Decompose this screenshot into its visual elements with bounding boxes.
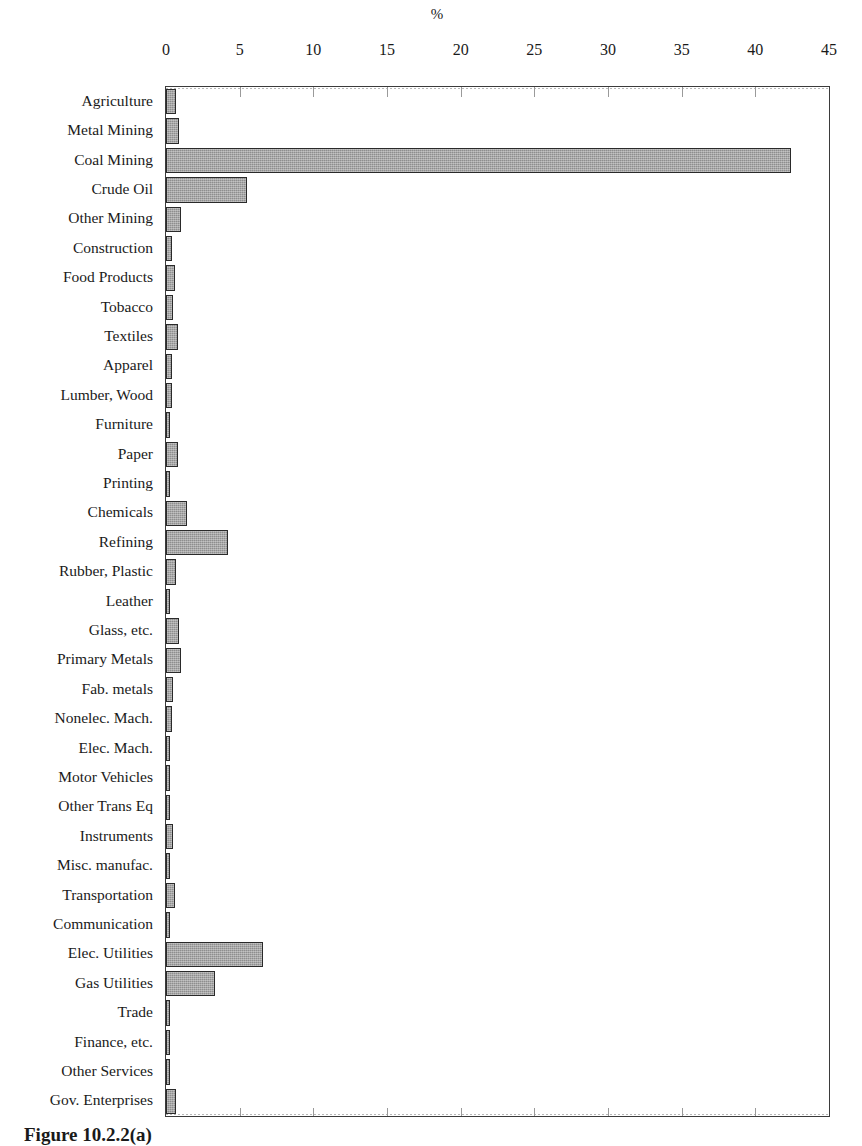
category-label-crude-oil: Crude Oil <box>0 179 160 199</box>
axis-title-text: % <box>431 6 444 22</box>
category-label-refining: Refining <box>0 532 160 552</box>
category-label-other-services: Other Services <box>0 1061 160 1081</box>
x-tick-label-0: 0 <box>146 40 186 60</box>
x-tick-label-25: 25 <box>514 40 554 60</box>
category-label-trade: Trade <box>0 1002 160 1022</box>
bar-row <box>166 293 829 322</box>
category-label-instruments: Instruments <box>0 826 160 846</box>
bar <box>166 589 170 614</box>
bar-row <box>166 1028 829 1057</box>
bar <box>166 1089 176 1114</box>
bar-row <box>166 381 829 410</box>
category-label-motor-vehicles: Motor Vehicles <box>0 767 160 787</box>
bar <box>166 912 170 937</box>
bar-row <box>166 675 829 704</box>
bar-row <box>166 969 829 998</box>
bar-row <box>166 763 829 792</box>
category-label-fab-metals: Fab. metals <box>0 679 160 699</box>
bar-row <box>166 146 829 175</box>
category-label-transportation: Transportation <box>0 885 160 905</box>
category-label-textiles: Textiles <box>0 326 160 346</box>
figure-caption: Figure 10.2.2(a) <box>24 1124 152 1146</box>
bar <box>166 795 170 820</box>
bar-row <box>166 587 829 616</box>
bar-row <box>166 205 829 234</box>
bar <box>166 1030 170 1055</box>
bar <box>166 559 176 584</box>
category-label-finance-etc: Finance, etc. <box>0 1032 160 1052</box>
bar-row <box>166 175 829 204</box>
x-tick-label-30: 30 <box>588 40 628 60</box>
bar-row <box>166 940 829 969</box>
bar-row <box>166 234 829 263</box>
bar <box>166 324 178 349</box>
category-label-coal-mining: Coal Mining <box>0 150 160 170</box>
bar <box>166 648 181 673</box>
bar <box>166 942 263 967</box>
bar <box>166 207 181 232</box>
category-label-gas-utilities: Gas Utilities <box>0 973 160 993</box>
bar <box>166 530 228 555</box>
category-label-construction: Construction <box>0 238 160 258</box>
axis-title: % <box>0 6 862 23</box>
x-tick-label-35: 35 <box>662 40 702 60</box>
bar <box>166 824 173 849</box>
bar <box>166 148 791 173</box>
category-label-lumber-wood: Lumber, Wood <box>0 385 160 405</box>
x-tick-label-20: 20 <box>441 40 481 60</box>
category-label-misc-manufac: Misc. manufac. <box>0 855 160 875</box>
x-tick-label-15: 15 <box>367 40 407 60</box>
bar <box>166 471 170 496</box>
bar <box>166 736 170 761</box>
bar-row <box>166 352 829 381</box>
category-label-glass-etc: Glass, etc. <box>0 620 160 640</box>
bar <box>166 706 172 731</box>
category-label-primary-metals: Primary Metals <box>0 649 160 669</box>
bar-row <box>166 263 829 292</box>
plot-area <box>165 86 830 1117</box>
bar-row <box>166 793 829 822</box>
category-axis-labels: AgricultureMetal MiningCoal MiningCrude … <box>0 86 160 1117</box>
bar <box>166 677 173 702</box>
category-label-metal-mining: Metal Mining <box>0 120 160 140</box>
bar-row <box>166 469 829 498</box>
category-label-elec-utilities: Elec. Utilities <box>0 943 160 963</box>
bar <box>166 412 170 437</box>
category-label-elec-mach: Elec. Mach. <box>0 738 160 758</box>
bar <box>166 853 170 878</box>
bar-row <box>166 646 829 675</box>
bar <box>166 383 172 408</box>
bar-row <box>166 87 829 116</box>
bar <box>166 89 176 114</box>
bar <box>166 295 173 320</box>
category-label-printing: Printing <box>0 473 160 493</box>
bar-row <box>166 410 829 439</box>
bar <box>166 765 170 790</box>
category-label-gov-enterprises: Gov. Enterprises <box>0 1090 160 1110</box>
bar-row <box>166 557 829 586</box>
category-label-other-trans-eq: Other Trans Eq <box>0 796 160 816</box>
category-label-other-mining: Other Mining <box>0 208 160 228</box>
category-label-food-products: Food Products <box>0 267 160 287</box>
bar-row <box>166 998 829 1027</box>
bar-row <box>166 851 829 880</box>
x-tick-label-40: 40 <box>735 40 775 60</box>
x-tick-label-45: 45 <box>809 40 849 60</box>
bar-row <box>166 440 829 469</box>
bar <box>166 177 247 202</box>
x-tick-label-10: 10 <box>293 40 333 60</box>
bar <box>166 442 178 467</box>
category-label-paper: Paper <box>0 444 160 464</box>
bar-row <box>166 910 829 939</box>
bar-row <box>166 734 829 763</box>
x-tick-label-5: 5 <box>220 40 260 60</box>
bar <box>166 1059 170 1084</box>
bar-row <box>166 116 829 145</box>
bar-row <box>166 499 829 528</box>
bar <box>166 971 215 996</box>
category-label-chemicals: Chemicals <box>0 502 160 522</box>
bar <box>166 354 172 379</box>
bar-row <box>166 822 829 851</box>
category-label-nonelec-mach: Nonelec. Mach. <box>0 708 160 728</box>
